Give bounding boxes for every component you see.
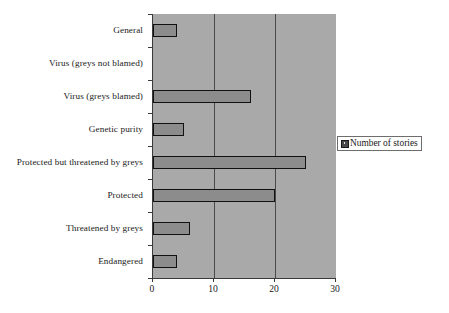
bars-layer — [153, 14, 336, 278]
bar-general — [153, 24, 177, 37]
y-tick — [148, 179, 152, 180]
y-axis-line — [152, 14, 153, 279]
category-label-text: Protected — [107, 190, 143, 200]
bar-row — [153, 179, 336, 212]
x-tick-30 — [335, 278, 336, 282]
category-label-text: Virus (greys blamed) — [63, 91, 143, 101]
bar-row — [153, 113, 336, 146]
bar-protected-but-threatened-by-greys — [153, 156, 306, 169]
bar-row — [153, 47, 336, 80]
bar-virus-greys-blamed — [153, 90, 251, 103]
category-label-protected: Protected — [0, 179, 148, 212]
category-label-text: Virus (greys not blamed) — [49, 58, 143, 68]
y-tick — [148, 113, 152, 114]
x-tick-label-30: 30 — [330, 283, 340, 294]
bar-row — [153, 80, 336, 113]
y-tick — [148, 245, 152, 246]
category-label-text: Threatened by greys — [66, 223, 143, 233]
x-tick-10 — [213, 278, 214, 282]
bar-row — [153, 14, 336, 47]
bar-endangered — [153, 255, 177, 268]
category-label-genetic-purity: Genetic purity — [0, 113, 148, 146]
x-tick-label-10: 10 — [208, 283, 218, 294]
legend-label: Number of stories — [350, 139, 418, 148]
category-label-text: General — [113, 25, 143, 35]
x-tick-label-0: 0 — [150, 283, 155, 294]
category-label-protected-but-threatened-by-greys: Protected but threatened by greys — [0, 146, 148, 179]
y-tick — [148, 14, 152, 15]
category-label-text: Endangered — [98, 256, 143, 266]
y-tick — [148, 278, 152, 279]
y-tick — [148, 212, 152, 213]
bar-row — [153, 245, 336, 278]
y-tick — [148, 47, 152, 48]
bar-protected — [153, 189, 275, 202]
legend: Number of stories — [337, 136, 422, 151]
x-tick-0 — [152, 278, 153, 282]
category-label-virus-greys-blamed: Virus (greys blamed) — [0, 80, 148, 113]
x-tick-20 — [274, 278, 275, 282]
y-tick — [148, 146, 152, 147]
legend-swatch-icon — [341, 140, 349, 148]
category-label-threatened-by-greys: Threatened by greys — [0, 212, 148, 245]
category-label-virus-greys-not-blamed: Virus (greys not blamed) — [0, 47, 148, 80]
category-label-text: Genetic purity — [89, 124, 143, 134]
x-tick-label-20: 20 — [269, 283, 279, 294]
category-axis: General Virus (greys not blamed) Virus (… — [0, 14, 148, 278]
plot-area — [152, 14, 336, 278]
bar-row — [153, 212, 336, 245]
bar-genetic-purity — [153, 123, 184, 136]
bar-row — [153, 146, 336, 179]
category-label-text: Protected but threatened by greys — [17, 157, 143, 167]
bar-chart: General Virus (greys not blamed) Virus (… — [0, 0, 449, 313]
category-label-general: General — [0, 14, 148, 47]
category-label-endangered: Endangered — [0, 245, 148, 278]
bar-threatened-by-greys — [153, 222, 190, 235]
y-tick — [148, 80, 152, 81]
x-axis-line — [152, 278, 336, 279]
